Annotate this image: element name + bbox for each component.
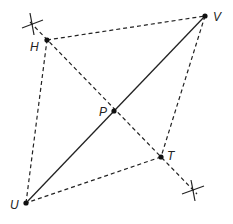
dashed-line-bisector	[30, 22, 197, 194]
label-h: H	[30, 40, 39, 54]
rhombus-construction-diagram: H V P T U	[0, 0, 233, 224]
label-p: P	[99, 105, 107, 119]
point-p	[111, 108, 116, 113]
label-u: U	[10, 198, 19, 212]
arc-mark-bottom-right	[182, 180, 204, 201]
dashed-side-tu	[26, 157, 161, 203]
label-t: T	[167, 149, 176, 163]
point-h	[44, 37, 49, 42]
dashed-side-hv	[47, 16, 205, 40]
point-t	[158, 154, 163, 159]
dashed-side-uh	[26, 40, 47, 203]
arc-mark-top-left	[22, 13, 43, 35]
label-v: V	[213, 10, 222, 24]
dashed-side-vt	[161, 16, 205, 157]
point-u	[23, 200, 28, 205]
point-v	[202, 13, 207, 18]
